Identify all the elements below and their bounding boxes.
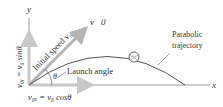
y-axis-label: y bbox=[26, 4, 31, 14]
trajectory-label-line2: trajectory bbox=[172, 41, 203, 50]
trajectory-leader bbox=[158, 53, 170, 65]
theta-label: θ bbox=[53, 72, 57, 81]
ball bbox=[129, 52, 139, 62]
launch-angle-leader bbox=[57, 72, 66, 78]
trajectory-label-line1: Parabolic bbox=[172, 30, 203, 39]
initial-velocity-arrow bbox=[29, 28, 86, 85]
v0y-equation-label: v₀ᵧ = v₀ sinθ bbox=[14, 46, 24, 88]
v0x-equation-label: v₀ₓ = v₀ cosθ bbox=[28, 92, 72, 102]
x-axis-label: x bbox=[211, 80, 216, 90]
launch-angle-label: Launch angle bbox=[67, 66, 113, 76]
projectile-diagram: y x v⃗0 Initial speed v₀ θ Launch angle … bbox=[0, 0, 223, 107]
velocity-vector-label: v⃗0 bbox=[90, 17, 106, 27]
